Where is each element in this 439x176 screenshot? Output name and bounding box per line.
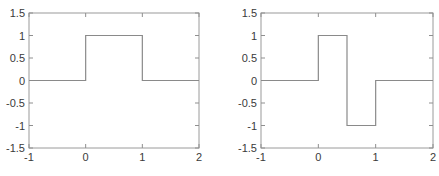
y-tick-label: -1.5 <box>6 142 25 154</box>
y-tick-label: 1.5 <box>242 7 257 19</box>
haar-wavelet-chart-svg: -1012-1.5-1-0.500.511.5 <box>219 0 439 176</box>
x-tick-label: 2 <box>430 151 436 163</box>
y-tick-label: 1 <box>19 30 25 42</box>
y-tick-label: -1 <box>15 120 25 132</box>
y-tick-label: -1.5 <box>238 142 257 154</box>
y-tick-label: -1 <box>247 120 257 132</box>
haar-pulse-line <box>261 36 433 126</box>
y-tick-label: -0.5 <box>6 97 25 109</box>
y-tick-label: 1.5 <box>10 7 25 19</box>
haar-wavelet-plot: -1012-1.5-1-0.500.511.5 <box>219 0 439 176</box>
scaling-function-chart-svg: -1012-1.5-1-0.500.511.5 <box>0 0 219 176</box>
y-tick-label: 0.5 <box>10 52 25 64</box>
y-tick-label: 1 <box>251 30 257 42</box>
x-tick-label: 2 <box>196 151 202 163</box>
x-tick-label: -1 <box>256 151 266 163</box>
y-tick-label: 0 <box>251 75 257 87</box>
x-tick-label: 1 <box>373 151 379 163</box>
boxcar-pulse-line <box>29 36 199 81</box>
x-tick-label: 0 <box>83 151 89 163</box>
y-tick-label: 0.5 <box>242 52 257 64</box>
x-tick-label: 1 <box>139 151 145 163</box>
y-tick-label: -0.5 <box>238 97 257 109</box>
x-tick-label: 0 <box>315 151 321 163</box>
scaling-function-plot: -1012-1.5-1-0.500.511.5 <box>0 0 219 176</box>
y-tick-label: 0 <box>19 75 25 87</box>
x-tick-label: -1 <box>24 151 34 163</box>
figure: -1012-1.5-1-0.500.511.5 -1012-1.5-1-0.50… <box>0 0 439 176</box>
